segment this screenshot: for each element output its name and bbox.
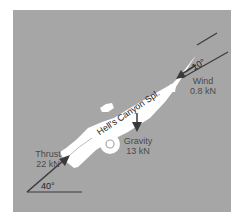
rear-wheel: [100, 134, 120, 154]
gravity-label: Gravity: [124, 136, 153, 146]
thrust-angle-label: 40°: [41, 181, 55, 191]
thrust-magnitude: 22 kN: [36, 159, 60, 169]
thrust-label: Thrust: [35, 149, 61, 159]
wind-magnitude: 0.8 kN: [190, 86, 216, 96]
force-diagram: Hell's Canyon Spl. Thrust 22 kN 40° Grav…: [0, 0, 241, 224]
wind-label: Wind: [193, 76, 214, 86]
gravity-magnitude: 13 kN: [126, 146, 150, 156]
